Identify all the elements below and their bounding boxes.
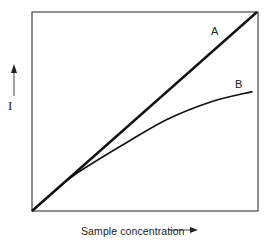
curve-label-a: A xyxy=(211,25,218,37)
x-axis-arrowhead-icon xyxy=(190,227,198,233)
series-line-b xyxy=(32,92,253,211)
chart-canvas xyxy=(0,0,267,244)
y-axis-label: I xyxy=(8,98,12,114)
x-axis-label: Sample concentration xyxy=(81,225,185,237)
curve-label-b: B xyxy=(235,78,242,90)
y-axis-arrowhead-icon xyxy=(11,64,17,73)
